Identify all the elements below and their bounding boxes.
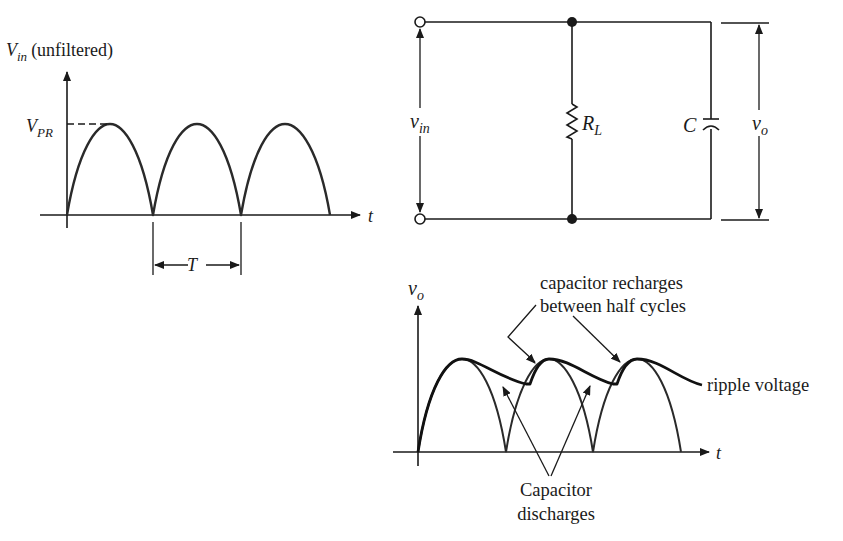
ripple-voltage-label: ripple voltage: [707, 375, 809, 395]
recharge-pointer-right: [573, 316, 620, 362]
output-waveform-chart: vo t capacitor recharges between half cy…: [393, 273, 809, 524]
rectified-wave: [67, 124, 330, 215]
vo-label: vo: [752, 112, 768, 138]
x-axis-label: t: [368, 206, 374, 226]
input-waveform-chart: T t Vin(unfiltered) VPR: [6, 40, 374, 275]
period-label: T: [187, 255, 199, 275]
recharge-pointer-left: [508, 305, 536, 362]
resistor-icon: [567, 104, 577, 139]
filter-circuit: vin RL C vo: [410, 17, 769, 224]
discharge-annotation-line1: Capacitor: [520, 480, 592, 500]
discharge-annotation-line2: discharges: [517, 504, 595, 524]
recharge-annotation-line1: capacitor recharges: [540, 273, 683, 293]
rectified-wave: [418, 359, 681, 452]
node-bottom: [567, 214, 577, 224]
recharge-annotation-line2: between half cycles: [540, 296, 686, 316]
capacitor-label: C: [683, 114, 697, 136]
recharge-arrowhead-left: [529, 357, 535, 363]
y-axis-label: Vin(unfiltered): [6, 40, 113, 64]
rectifier-filter-figure: T t Vin(unfiltered) VPR vin RL: [0, 0, 843, 541]
vin-label: vin: [410, 110, 430, 136]
input-terminal-top: [415, 17, 425, 27]
y-axis-label: vo: [408, 277, 424, 303]
peak-label: VPR: [26, 116, 53, 140]
input-terminal-bottom: [415, 214, 425, 224]
node-top: [567, 17, 577, 27]
discharge-pointer-right: [551, 386, 590, 476]
resistor-label: RL: [581, 112, 602, 138]
x-axis-label: t: [716, 443, 722, 463]
ripple-voltage-curve: [418, 359, 702, 452]
